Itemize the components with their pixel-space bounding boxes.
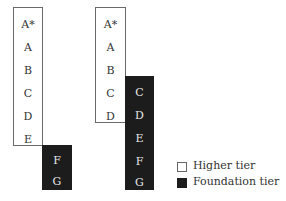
column1-foundation-tier-box: F G: [42, 145, 72, 190]
grade-label: G: [42, 176, 72, 188]
grade-label: F: [42, 155, 72, 167]
column1-higher-tier-box: A* A B C D E: [13, 7, 43, 146]
grade-label: F: [125, 156, 154, 168]
grade-label: C: [14, 88, 42, 100]
grade-label: E: [14, 134, 42, 146]
column2-higher-tier-box: A* A B C D: [95, 7, 126, 123]
grade-label: B: [14, 65, 42, 77]
grade-label: D: [96, 111, 125, 123]
grade-label: A: [14, 42, 42, 54]
white-swatch-icon: [177, 162, 187, 172]
grade-label: A*: [14, 19, 42, 31]
column2-foundation-tier-box: C D E F G: [125, 76, 154, 190]
grade-label: A: [96, 42, 125, 54]
grade-label: C: [125, 87, 154, 99]
black-swatch-icon: [177, 178, 187, 188]
grade-label: B: [96, 65, 125, 77]
grade-label: D: [14, 111, 42, 123]
grade-label: G: [125, 177, 154, 189]
legend-label: Higher tier: [193, 159, 255, 172]
grade-label: E: [125, 133, 154, 145]
grade-label: D: [125, 110, 154, 122]
grade-label: C: [96, 88, 125, 100]
legend-label: Foundation tier: [193, 175, 279, 188]
grade-label: A*: [96, 19, 125, 31]
